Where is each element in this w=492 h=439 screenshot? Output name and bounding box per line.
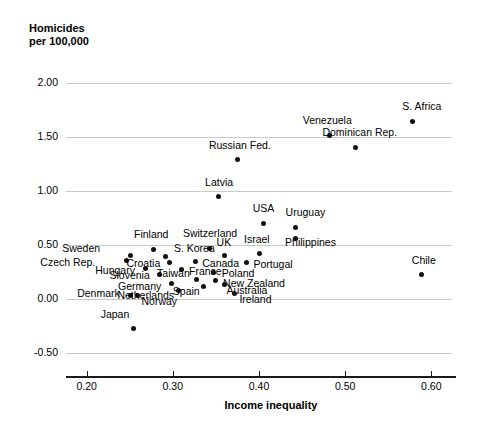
gridline <box>66 245 452 246</box>
data-point[interactable] <box>410 119 415 124</box>
y-tick-label: -0.50 <box>14 347 58 358</box>
data-point[interactable] <box>163 254 168 259</box>
data-point-label: Dominican Rep. <box>322 127 397 138</box>
data-point-label: Israel <box>244 234 270 245</box>
data-point[interactable] <box>353 145 358 150</box>
data-point[interactable] <box>167 260 172 265</box>
x-tick-mark <box>345 371 346 376</box>
x-tick-label: 0.60 <box>408 381 454 392</box>
data-point-label: Norway <box>142 296 178 307</box>
y-tick-label: 1.00 <box>14 185 58 196</box>
data-point-label: Ireland <box>239 294 271 305</box>
x-tick-label: 0.40 <box>236 381 282 392</box>
data-point-label: France <box>189 266 222 277</box>
x-axis-line <box>66 376 456 378</box>
data-point-label: S. Korea <box>174 243 215 254</box>
scatter-chart: Homicides per 100,000 2.001.501.000.500.… <box>0 0 492 439</box>
data-point-label: Venezuela <box>303 115 352 126</box>
y-tick-label: 1.50 <box>14 131 58 142</box>
data-point-label: Uruguay <box>286 207 326 218</box>
data-point-label: Russian Fed. <box>209 140 271 151</box>
gridline <box>66 353 452 354</box>
data-point[interactable] <box>222 253 227 258</box>
data-point-label: Finland <box>134 229 168 240</box>
x-axis-title: Income inequality <box>171 399 371 411</box>
data-point[interactable] <box>261 221 266 226</box>
data-point[interactable] <box>232 291 237 296</box>
x-tick-mark <box>173 371 174 376</box>
data-point-label: Latvia <box>205 177 233 188</box>
data-point-label: Sweden <box>62 243 100 254</box>
data-point-label: S. Africa <box>402 101 441 112</box>
data-point[interactable] <box>244 260 249 265</box>
x-tick-mark <box>87 371 88 376</box>
data-point[interactable] <box>151 247 156 252</box>
x-tick-label: 0.30 <box>150 381 196 392</box>
data-point[interactable] <box>257 251 262 256</box>
data-point[interactable] <box>235 157 240 162</box>
data-point-label: USA <box>253 203 275 214</box>
data-point-label: Taiwan <box>157 268 190 279</box>
data-point[interactable] <box>201 284 206 289</box>
data-point-label: Philippines <box>285 237 336 248</box>
y-tick-label: 0.50 <box>14 239 58 250</box>
x-tick-label: 0.50 <box>322 381 368 392</box>
data-point-label: Chile <box>412 255 436 266</box>
x-tick-label: 0.20 <box>64 381 110 392</box>
data-point[interactable] <box>216 194 221 199</box>
data-point-label: Portugal <box>254 259 293 270</box>
x-tick-mark <box>431 371 432 376</box>
data-point[interactable] <box>211 270 216 275</box>
data-point[interactable] <box>131 326 136 331</box>
gridline <box>66 191 452 192</box>
data-point[interactable] <box>419 272 424 277</box>
data-point-label: Czech Rep. <box>40 257 95 268</box>
plot-area: 2.001.501.000.500.00-0.500.200.300.400.5… <box>0 0 492 439</box>
gridline <box>66 83 452 84</box>
data-point-label: Denmark <box>77 288 120 299</box>
data-point[interactable] <box>293 225 298 230</box>
x-tick-mark <box>259 371 260 376</box>
data-point[interactable] <box>193 259 198 264</box>
data-point[interactable] <box>194 277 199 282</box>
data-point-label: Japan <box>101 309 130 320</box>
y-tick-label: 0.00 <box>14 293 58 304</box>
data-point-label: UK <box>217 237 232 248</box>
data-point[interactable] <box>213 278 218 283</box>
y-tick-label: 2.00 <box>14 77 58 88</box>
